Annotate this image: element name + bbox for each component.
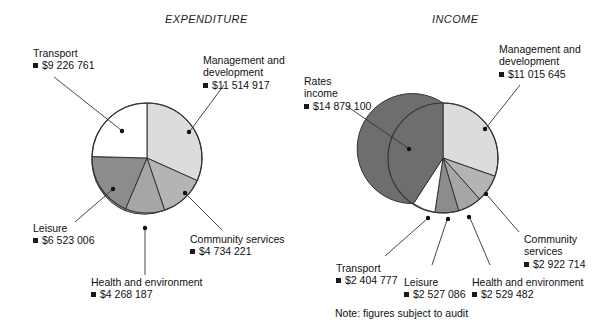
legend-square-icon — [499, 72, 504, 77]
callout-value-rates: $14 879 100 — [304, 100, 371, 112]
callout-label-rates-2: income — [304, 87, 371, 99]
callout-label-management-2: development — [203, 66, 285, 78]
leader-line-income-community — [487, 195, 519, 232]
leader-dot-expenditure-management — [187, 130, 191, 134]
callout-label-leisure: Leisure — [33, 222, 95, 234]
callout-label-community-1: Community — [524, 233, 586, 245]
legend-square-icon — [203, 83, 208, 88]
callout-income-transport: Transport $2 404 777 — [336, 262, 398, 287]
callout-expenditure-health: Health and environment $4 268 187 — [91, 276, 203, 301]
callout-income-leisure: Leisure $2 527 086 — [404, 276, 466, 301]
callout-label-transport: Transport — [33, 47, 95, 59]
leader-dot-income-transport — [426, 216, 430, 220]
leader-dot-income-community — [484, 192, 488, 196]
leader-dot-expenditure-transport — [120, 129, 124, 133]
pie-slice-income-health — [443, 158, 480, 211]
legend-square-icon — [33, 238, 38, 243]
leader-line-expenditure-leisure — [75, 190, 112, 222]
leader-dot-expenditure-leisure — [111, 187, 115, 191]
leader-dot-income-health — [467, 215, 471, 219]
chart-title-income: INCOME — [432, 13, 478, 25]
leader-dot-income-leisure — [446, 217, 450, 221]
leader-line-expenditure-transport — [54, 77, 121, 130]
callout-value-transport: $2 404 777 — [336, 274, 398, 286]
callout-value-transport: $9 226 761 — [33, 59, 95, 71]
callout-income-rates: Rates income $14 879 100 — [304, 75, 371, 112]
callout-label-management-2: development — [499, 55, 581, 67]
pie-slice-expenditure-health — [125, 158, 165, 214]
pie-slice-income-management — [443, 103, 498, 176]
callout-value-health: $2 529 482 — [472, 288, 584, 300]
pie-slice-expenditure-transport — [92, 103, 147, 158]
pie-slice-income-leisure — [435, 158, 459, 213]
leader-line-income-management — [486, 85, 520, 128]
pie-slice-expenditure-community — [147, 158, 197, 210]
callout-label-management-1: Management and — [203, 54, 285, 66]
callout-income-management: Management and development $11 015 645 — [499, 43, 581, 80]
callout-income-community: Community services $2 922 714 — [524, 233, 586, 270]
callout-label-rates-1: Rates — [304, 75, 371, 87]
pie-slice-income-transport — [413, 158, 443, 212]
callout-label-transport: Transport — [336, 262, 398, 274]
pie-slice-income-community — [443, 158, 495, 199]
legend-square-icon — [190, 249, 195, 254]
legend-square-icon — [33, 63, 38, 68]
callout-label-health: Health and environment — [472, 276, 584, 288]
pie-slice-expenditure-management — [147, 103, 202, 181]
callout-label-community: Community services — [190, 233, 285, 245]
callout-label-community-2: services — [524, 245, 586, 257]
callout-value-management: $11 015 645 — [499, 68, 581, 80]
leader-dot-income-rates — [407, 147, 411, 151]
callout-value-management: $11 514 917 — [203, 79, 285, 91]
leader-line-expenditure-community — [186, 194, 222, 230]
callout-value-leisure: $6 523 006 — [33, 234, 95, 246]
callout-label-health: Health and environment — [91, 276, 203, 288]
leader-line-income-leisure — [432, 220, 447, 265]
callout-value-community: $4 734 221 — [190, 245, 285, 257]
callout-label-management-1: Management and — [499, 43, 581, 55]
leader-line-expenditure-management — [190, 85, 224, 131]
chart-title-expenditure: EXPENDITURE — [165, 13, 248, 25]
leader-line-income-health — [470, 218, 490, 265]
pie-slice-expenditure-leisure — [92, 157, 147, 211]
legend-square-icon — [524, 262, 529, 267]
callout-income-health: Health and environment $2 529 482 — [472, 276, 584, 301]
pie-income — [348, 85, 520, 265]
callout-expenditure-management: Management and development $11 514 917 — [203, 54, 285, 91]
callout-value-community: $2 922 714 — [524, 258, 586, 270]
callout-value-leisure: $2 527 086 — [404, 288, 466, 300]
leader-line-income-transport — [385, 219, 427, 256]
legend-square-icon — [91, 292, 96, 297]
legend-square-icon — [336, 278, 341, 283]
legend-square-icon — [304, 104, 309, 109]
legend-square-icon — [404, 292, 409, 297]
callout-expenditure-community: Community services $4 734 221 — [190, 233, 285, 258]
callout-label-leisure: Leisure — [404, 276, 466, 288]
audit-note: Note: figures subject to audit — [335, 307, 468, 319]
leader-dot-expenditure-community — [183, 191, 187, 195]
callout-expenditure-transport: Transport $9 226 761 — [33, 47, 95, 72]
leader-dot-income-management — [483, 127, 487, 131]
callout-expenditure-leisure: Leisure $6 523 006 — [33, 222, 95, 247]
callout-value-health: $4 268 187 — [91, 288, 203, 300]
leader-line-income-rates — [348, 107, 408, 148]
legend-square-icon — [472, 292, 477, 297]
leader-dot-expenditure-health — [143, 226, 147, 230]
